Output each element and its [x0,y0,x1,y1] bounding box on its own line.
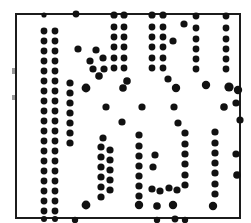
halftone-dot [92,46,99,53]
halftone-dot [41,216,47,222]
halftone-dot [41,188,48,195]
halftone-dot [121,55,128,62]
halftone-dot [135,142,142,149]
halftone-dot [234,86,242,94]
halftone-dot [121,24,128,31]
halftone-dot [135,192,142,199]
halftone-dot [193,46,200,53]
halftone-dot [181,140,188,147]
halftone-dot [110,11,117,18]
halftone-dot [52,138,59,145]
halftone-dot [181,129,188,136]
halftone-dot [52,128,59,135]
halftone-dot [135,131,142,138]
halftone-dot [193,36,200,43]
halftone-dot [182,217,188,223]
halftone-dot [111,34,118,41]
halftone-dot [211,180,218,187]
dot-scatter-svg [0,0,251,223]
halftone-dot [41,48,48,55]
halftone-dot [52,48,59,55]
halftone-dot [223,36,230,43]
halftone-dot [160,44,167,51]
halftone-dot [160,55,167,62]
halftone-dot [236,116,243,123]
halftone-dot [52,118,59,125]
halftone-dot [135,182,142,189]
halftone-dot [121,44,128,51]
halftone-dot [52,38,59,45]
halftone-dot [52,216,58,222]
halftone-dot [211,169,218,176]
halftone-dot [149,34,156,41]
halftone-dot [169,201,177,209]
halftone-dot [52,58,59,65]
halftone-dot [223,66,230,73]
halftone-dot [52,108,59,115]
halftone-dot [172,216,179,223]
halftone-dot [41,178,48,185]
halftone-dot [154,217,160,223]
halftone-dot [193,13,200,20]
halftone-dot [151,151,158,158]
halftone-dot [123,77,131,85]
halftone-dot [52,198,59,205]
halftone-dot [220,103,228,111]
halftone-dot [232,150,239,157]
halftone-dot [135,172,142,179]
halftone-dot [156,187,163,194]
halftone-dot [169,37,176,44]
halftone-dot [66,89,73,96]
halftone-dot [174,119,181,126]
halftone-dot [148,11,155,18]
halftone-dot [106,186,113,193]
halftone-dot [138,103,145,110]
halftone-dot [106,156,113,163]
halftone-dot [52,168,59,175]
halftone-dot [41,128,48,135]
halftone-dot [120,11,127,18]
halftone-dot [149,24,156,31]
halftone-dot [66,129,73,136]
halftone-dot [223,56,230,63]
halftone-dot [149,44,156,51]
halftone-dot [82,84,91,93]
halftone-dot [41,68,48,75]
halftone-dot [111,44,118,51]
halftone-dot [41,208,48,215]
halftone-dot [41,58,48,65]
halftone-dot [41,158,48,165]
halftone-dot [181,171,188,178]
halftone-dot [52,98,59,105]
halftone-dot [111,24,118,31]
figure-canvas [0,0,251,223]
halftone-dot [160,34,167,41]
halftone-dot [52,78,59,85]
halftone-dot [97,153,104,160]
halftone-dot [106,166,113,173]
halftone-dot [97,183,104,190]
halftone-dot [149,55,156,62]
halftone-dot [52,28,59,35]
halftone-dot [72,217,78,223]
halftone-dot [121,34,128,41]
halftone-dot [41,118,48,125]
halftone-dot [95,72,103,80]
halftone-dot [97,163,104,170]
halftone-dot [99,54,106,61]
halftone-dot [181,150,188,157]
halftone-dot [52,178,59,185]
halftone-dot [102,103,109,110]
halftone-dot [211,159,218,166]
halftone-dot [97,173,104,180]
halftone-dot [223,46,230,53]
halftone-dot [41,38,48,45]
halftone-dot [66,99,73,106]
halftone-dot [89,65,96,72]
halftone-dot [193,56,200,63]
halftone-dot [223,13,230,20]
halftone-dot [181,160,188,167]
halftone-dot [41,138,48,145]
halftone-dot [135,152,142,159]
halftone-dot [99,134,106,141]
